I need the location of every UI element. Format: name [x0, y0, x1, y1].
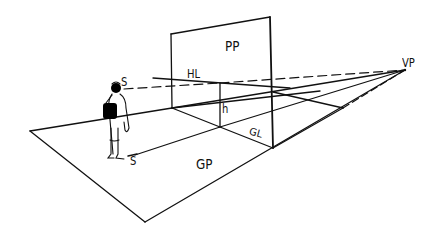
label-picture-plane: PP [225, 39, 239, 53]
label-horizon-line: HL [187, 69, 200, 81]
diagram-canvas [0, 0, 441, 247]
ground-line [172, 92, 343, 148]
floor-lines [135, 70, 405, 155]
label-ground-plane: GP [196, 157, 213, 171]
label-eye-height: h [222, 104, 228, 116]
label-station-point-eye: S [121, 77, 127, 89]
observer-figure [103, 82, 129, 159]
ground-plane [30, 70, 405, 222]
perspective-diagram: PP HL S h GL GP S VP [0, 0, 441, 247]
label-vanishing-point: VP [402, 58, 415, 70]
label-station-point-ground: S [130, 156, 136, 168]
